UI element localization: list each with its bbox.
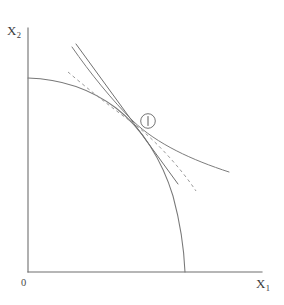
indifference-curve xyxy=(72,47,229,172)
dashed-alternative-curve xyxy=(68,72,196,191)
y-axis-label-base: X xyxy=(7,23,16,38)
diagram-canvas xyxy=(0,0,284,305)
tangent-price-line xyxy=(76,44,178,184)
x-axis-label-base: X xyxy=(256,276,265,291)
y-axis-label: X2 xyxy=(7,24,21,37)
production-possibility-frontier-curve xyxy=(28,78,185,272)
ppf-diagram-figure: X2 X1 0 xyxy=(0,0,284,305)
origin-label: 0 xyxy=(21,278,26,289)
y-axis-label-subscript: 2 xyxy=(17,30,21,40)
x-axis-label-subscript: 1 xyxy=(266,283,270,293)
x-axis-label: X1 xyxy=(256,277,270,290)
tangency-point-marker xyxy=(141,114,156,129)
